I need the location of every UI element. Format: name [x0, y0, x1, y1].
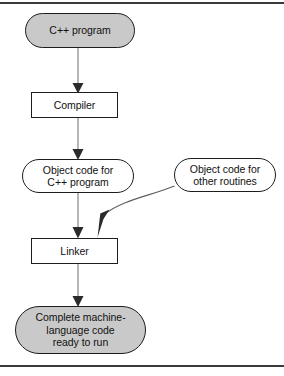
connector-object-code-cpp-to-linker — [73, 193, 84, 239]
node-object-code-other[interactable]: Object code for other routines — [174, 158, 276, 192]
node-compiler-label: Compiler — [49, 99, 101, 112]
node-object-code-cpp-label: Object code for C++ program — [38, 164, 118, 189]
node-cpp-program-label: C++ program — [44, 24, 115, 37]
figure-container: C++ program Compiler Object code for C++… — [0, 0, 284, 376]
connector-linker-to-machine-code — [73, 264, 84, 307]
node-machine-code[interactable]: Complete machine- language code ready to… — [15, 306, 146, 354]
node-object-code-cpp[interactable]: Object code for C++ program — [22, 159, 134, 193]
node-machine-code-label: Complete machine- language code ready to… — [30, 311, 130, 349]
node-cpp-program[interactable]: C++ program — [25, 13, 135, 48]
node-linker[interactable]: Linker — [31, 238, 118, 264]
connector-source-to-compiler — [73, 48, 84, 94]
node-linker-label: Linker — [55, 245, 93, 258]
connector-object-code-other-to-linker — [98, 186, 175, 238]
node-object-code-other-label: Object code for other routines — [185, 163, 265, 188]
node-compiler[interactable]: Compiler — [31, 92, 118, 118]
connector-compiler-to-object-code-cpp — [73, 118, 84, 160]
